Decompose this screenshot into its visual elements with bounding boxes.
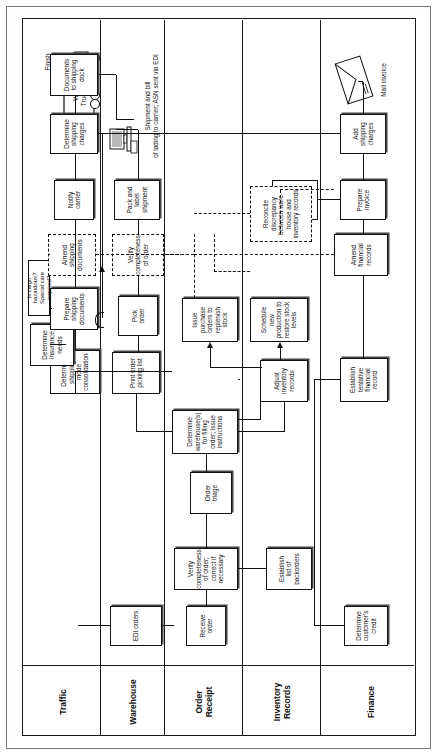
- node-determine-shipping-charges-label: Determineshippingcharges: [63, 119, 85, 148]
- node-prepare-shipping-documents[interactable]: Prepareshippingdocuments: [50, 288, 98, 330]
- connector-determine-wh-down: [238, 419, 260, 420]
- connector-invoice-to-amend: [363, 220, 364, 234]
- connector-add-to-mail: [363, 82, 364, 114]
- lane-label-traffic: Traffic: [58, 670, 68, 734]
- node-determine-customer-credit-label: Determinecustomer'scredit: [355, 611, 377, 642]
- lane-divider-traffic-warehouse: [100, 20, 101, 736]
- node-adjust-inventory-records[interactable]: Adjustinventoryrecords: [260, 360, 308, 402]
- line-jump-hop: [95, 312, 104, 328]
- connector-determine-wh-to-traffic-h: [75, 372, 76, 394]
- node-verify-completeness-warehouse[interactable]: Verifycompletenessof order: [112, 234, 164, 276]
- node-reconcile-discrepancy[interactable]: Reconcilediscrepancybetween ware-house a…: [250, 186, 312, 242]
- node-schedule-new-production[interactable]: Schedule newproduction torestore stock l…: [250, 298, 308, 342]
- lane-label-inventory-records-line1: Inventory: [272, 670, 282, 734]
- connector-print-to-pick: [138, 336, 139, 352]
- node-issue-purchase-orders[interactable]: Issue purchaseorders toreplenish stock: [182, 298, 238, 342]
- node-edi-orders[interactable]: EDI orders: [110, 606, 162, 646]
- dashed-connector-reconcile-up: [214, 271, 250, 272]
- connector-wh-to-finance: [238, 379, 240, 380]
- node-establish-tentative-financial-record[interactable]: Establishtentativefinancial record: [340, 358, 388, 402]
- node-edi-orders-label: EDI orders: [132, 611, 139, 642]
- node-documents-to-shipping-dock-label: Documentsto shippingdock: [63, 59, 85, 91]
- connector-tentative-to-amend: [363, 276, 364, 358]
- dashed-connector-amend-financial-v: [194, 254, 334, 255]
- shipment-annotation-line2: of lading to carrier; ASN sent via EDI: [152, 16, 159, 196]
- connector-determine-wh-to-adjust: [260, 402, 261, 420]
- node-verify-completeness-of-order-label: Verify completenessof order; correct ifn…: [187, 549, 224, 588]
- lane-label-inventory-records-line2: Records: [282, 670, 292, 734]
- dashed-connector-verify-wh-v: [164, 254, 194, 255]
- node-prepare-invoice[interactable]: Prepareinvoice: [340, 180, 386, 220]
- node-determine-warehouses[interactable]: Determinewarehouse(s) for fillingorder; …: [172, 410, 238, 454]
- dashed-connector-verify-warehouse: [194, 234, 195, 298]
- node-establish-tentative-financial-record-label: Establishtentativefinancial record: [349, 361, 379, 399]
- node-establish-list-of-backorders[interactable]: Establishlist ofbackorders: [266, 548, 312, 590]
- node-order-triage[interactable]: Ordertriage: [190, 472, 232, 514]
- connector-credit-to-tentative-v: [314, 379, 340, 380]
- node-determine-customer-credit[interactable]: Determinecustomer'scredit: [344, 606, 388, 646]
- node-adjust-inventory-records-label: Adjustinventoryrecords: [273, 368, 295, 394]
- node-print-order-picking-list[interactable]: Print orderpicking list: [112, 352, 160, 394]
- connector-documents-to-truck-h: [116, 75, 117, 120]
- connector-mode-to-prepare: [75, 330, 76, 350]
- connector-adjust-to-schedule: [280, 346, 281, 360]
- node-establish-list-of-backorders-label: Establishlist ofbackorders: [278, 553, 300, 585]
- node-notify-carrier-label: Notifycarrier: [67, 191, 82, 209]
- connector-credit-to-tentative-h: [314, 380, 315, 626]
- connector-add-to-prepare-invoice: [363, 154, 364, 180]
- node-amend-shipping-documents-label: Amendshippingdocuments: [61, 239, 83, 270]
- node-add-shipping-charges[interactable]: Addshippingcharges: [340, 114, 386, 154]
- dashed-connector-reconcile-top: [214, 234, 215, 272]
- connector-pack-to-shipment-v: [116, 129, 138, 130]
- connector-mail-v: [358, 81, 363, 82]
- lane-divider-warehouse-order: [164, 20, 165, 736]
- connector-prepare-to-hazardous: [50, 308, 52, 309]
- connector-edi-top: [78, 625, 110, 626]
- lane-label-column-divider: [22, 665, 414, 666]
- connector-verify-to-backorders: [238, 568, 266, 569]
- node-issue-purchase-orders-label: Issue purchaseorders toreplenish stock: [191, 301, 228, 339]
- connector-triage-to-determine-wh: [206, 454, 207, 472]
- connector-mode-to-insurance: [50, 344, 66, 345]
- connector-determine-wh-down2: [238, 431, 284, 432]
- envelope-icon: [332, 54, 380, 106]
- lane-label-warehouse: Warehouse: [128, 670, 138, 734]
- dashed-connector-reconcile-right: [194, 213, 250, 214]
- connector-edi-to-verify: [162, 625, 174, 626]
- node-amend-shipping-documents[interactable]: Amendshippingdocuments: [48, 234, 96, 276]
- node-reconcile-discrepancy-label: Reconcilediscrepancybetween ware-house a…: [262, 189, 299, 238]
- node-determine-insurance-needs[interactable]: Determineinsuranceneeds: [30, 324, 74, 366]
- connector-truck-v: [116, 119, 134, 120]
- node-prepare-shipping-documents-label: Prepareshippingdocuments: [63, 293, 85, 324]
- diagram-rotation-wrapper: Traffic Warehouse Order Receipt Inventor…: [14, 13, 423, 742]
- lane-label-order-receipt-line2: Receipt: [204, 670, 214, 734]
- node-determine-insurance-needs-label: Determineinsuranceneeds: [41, 330, 63, 359]
- node-receive-order-label: Receiveorder: [199, 614, 214, 637]
- node-documents-to-shipping-dock[interactable]: Documentsto shippingdock: [50, 54, 98, 96]
- shipment-annotation-line1: Shipment and bill: [144, 36, 151, 176]
- node-pick-order-label: Pickorder: [131, 309, 146, 324]
- mail-invoice-label: Mail invoice: [380, 44, 388, 116]
- node-determine-shipping-charges[interactable]: Determineshippingcharges: [50, 114, 98, 154]
- connector-determine-wh-to-adjust2: [284, 402, 285, 432]
- connector-amend-shipping-tie: [48, 254, 50, 255]
- connector-start-to-credit: [314, 625, 344, 626]
- node-pick-order[interactable]: Pickorder: [118, 296, 158, 336]
- node-is-cargo-hazardous[interactable]: Is cargo hazardous?Special care required…: [28, 260, 50, 316]
- node-receive-order[interactable]: Receiveorder: [186, 606, 226, 646]
- scanned-page: Traffic Warehouse Order Receipt Inventor…: [0, 0, 437, 755]
- node-print-order-picking-list-label: Print orderpicking list: [129, 358, 144, 388]
- node-order-triage-label: Ordertriage: [204, 485, 219, 501]
- node-amend-financial-records-dash-overlay: [334, 234, 388, 276]
- node-determine-warehouses-label: Determinewarehouse(s) for fillingorder; …: [186, 413, 223, 452]
- connector-determine-wh-to-traffic-v: [75, 371, 172, 372]
- dashed-connector-reconcile-to-finance-h: [280, 190, 281, 234]
- arrow-adjust-to-issue: [207, 342, 213, 348]
- lane-label-finance: Finance: [366, 670, 376, 734]
- flowchart-canvas: Traffic Warehouse Order Receipt Inventor…: [14, 13, 423, 742]
- node-notify-carrier[interactable]: Notifycarrier: [54, 180, 94, 220]
- connector-adjust-to-issue-h: [210, 346, 211, 368]
- node-pack-and-label-shipment-label: Pack andlabelshipment: [126, 187, 148, 214]
- node-verify-completeness-of-order[interactable]: Verify completenessof order; correct ifn…: [174, 548, 238, 590]
- connector-pick-to-verify: [138, 276, 139, 296]
